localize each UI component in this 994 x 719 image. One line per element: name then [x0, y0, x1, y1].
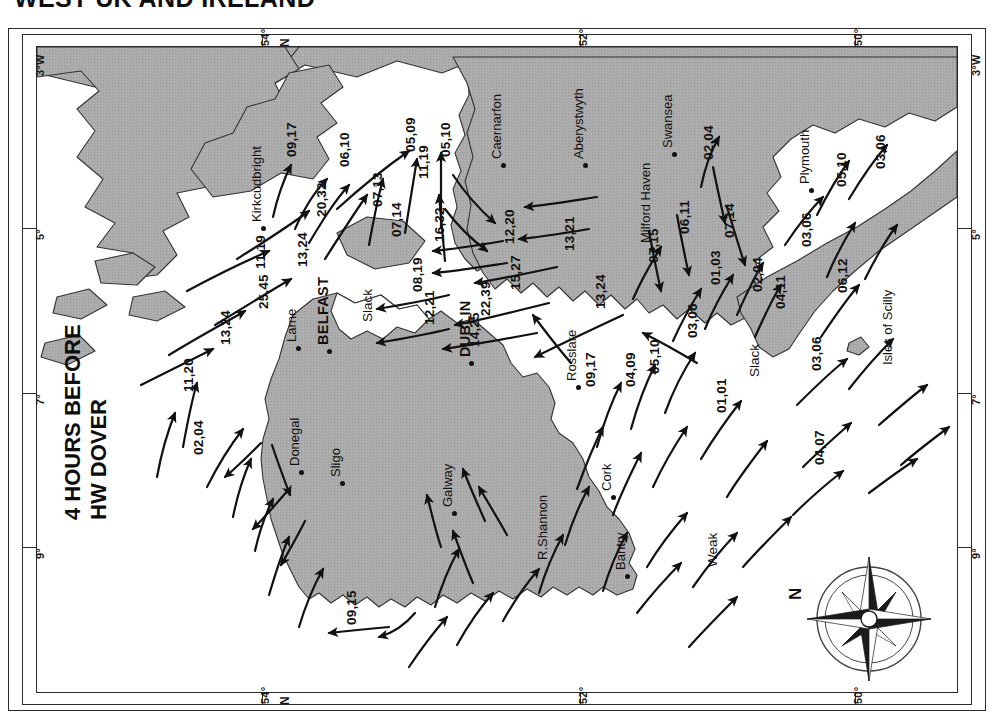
graticule-label-left-3w: 3°W — [34, 55, 46, 77]
port-dot-plymouth — [809, 188, 814, 193]
page-title: WEST UK AND IRELAND — [14, 0, 315, 13]
port-dot-donegal — [299, 470, 304, 475]
land-masses — [37, 47, 957, 607]
graticule-label-right-9: 9° — [970, 548, 982, 559]
graticule-label-top-50: 50° — [852, 29, 864, 46]
caption-line-2: HW DOVER — [86, 280, 112, 520]
map-canvas — [37, 47, 957, 692]
tidal-atlas-page: WEST UK AND IRELAND — [0, 0, 994, 719]
port-dot-milford-haven — [650, 247, 655, 252]
port-dot-rosslare — [576, 385, 581, 390]
graticule-label-left-7: 7° — [34, 394, 46, 405]
port-dot-caernarfon — [501, 163, 506, 168]
compass-rose — [807, 557, 931, 681]
port-dot-dublin — [469, 361, 474, 366]
graticule-label-bottom-50: 50° — [852, 687, 864, 704]
port-dot-swansea — [672, 152, 677, 157]
graticule-label-right-3w: 3°W — [970, 55, 982, 77]
port-dot-cork — [611, 495, 616, 500]
port-dot-aberystwyth — [583, 163, 588, 168]
graticule-label-left-9: 9° — [34, 548, 46, 559]
chart-hour-caption: 4 HOURS BEFORE HW DOVER — [60, 280, 112, 520]
graticule-label-right-7: 7° — [970, 394, 982, 405]
port-dot-belfast — [327, 349, 332, 354]
graticule-label-top-52: 52° — [577, 29, 589, 46]
graticule-label-right-5: 5° — [970, 229, 982, 240]
caption-line-1: 4 HOURS BEFORE — [60, 280, 86, 520]
graticule-label-bottom-52: 52° — [577, 687, 589, 704]
graticule-label-bottom-54: 54° — [259, 687, 271, 704]
port-dot-bantry — [625, 574, 630, 579]
graticule-label-bottom-north: N — [278, 696, 292, 705]
port-dot-sligo — [340, 481, 345, 486]
port-dot-kirkcudbright — [261, 226, 266, 231]
coastline-drawing — [37, 47, 957, 692]
port-dot-galway — [452, 511, 457, 516]
graticule-label-top-north: N — [278, 38, 292, 47]
graticule-label-left-5: 5° — [34, 229, 46, 240]
port-dot-larne — [296, 346, 301, 351]
graticule-label-top-54: 54° — [259, 29, 271, 46]
